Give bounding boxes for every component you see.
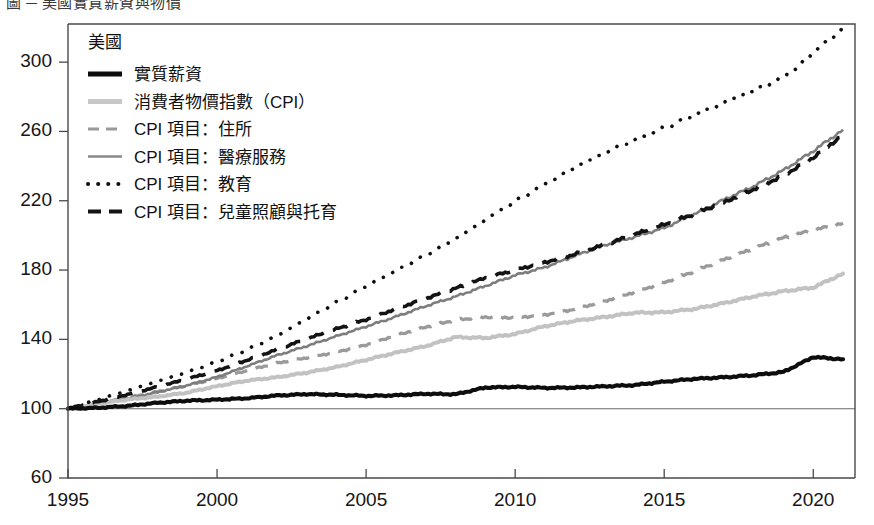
x-tick-label: 2015 [643, 489, 685, 510]
legend-label: 消費者物價指數（CPI） [134, 93, 315, 112]
legend-label: CPI 項目：教育 [134, 175, 252, 194]
legend-title: 美國 [88, 33, 122, 52]
y-tick-label: 300 [20, 50, 52, 71]
legend-label: 實質薪資 [134, 65, 202, 84]
x-tick-label: 2010 [494, 489, 536, 510]
y-tick-label: 260 [20, 119, 52, 140]
legend-label: CPI 項目：兒童照顧與托育 [134, 203, 337, 222]
y-tick-label: 220 [20, 189, 52, 210]
x-tick-label: 2000 [196, 489, 238, 510]
legend-label: CPI 項目：住所 [134, 120, 252, 139]
legend-label: CPI 項目：醫療服務 [134, 148, 286, 167]
y-tick-label: 140 [20, 327, 52, 348]
x-tick-label: 2005 [345, 489, 387, 510]
chart-figure: 圖 ─ 美國實質薪資與物價 60100140180220260300 19952… [0, 0, 874, 525]
y-tick-label: 180 [20, 258, 52, 279]
x-tick-label: 1995 [47, 489, 89, 510]
x-tick-label: 2020 [792, 489, 834, 510]
y-axis-ticks: 60100140180220260300 [20, 50, 68, 487]
line-chart-canvas: 60100140180220260300 1995200020052010201… [0, 0, 874, 525]
y-tick-label: 60 [31, 466, 52, 487]
y-tick-label: 100 [20, 397, 52, 418]
